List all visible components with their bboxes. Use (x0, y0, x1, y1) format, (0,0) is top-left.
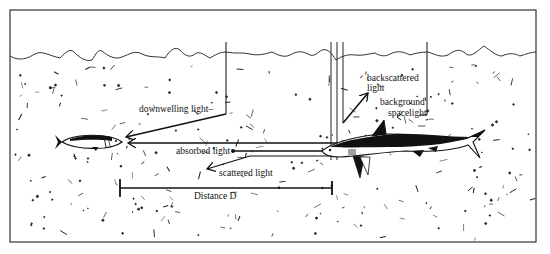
particle (360, 225, 361, 226)
particle (230, 228, 231, 229)
particle (344, 194, 349, 196)
label-distance-d: Distance D (194, 191, 237, 201)
particle (412, 69, 414, 71)
particle (272, 234, 273, 237)
particle (437, 171, 442, 173)
particle (154, 229, 155, 237)
particle (44, 216, 45, 217)
particle (169, 79, 171, 81)
particle (264, 138, 267, 142)
particle (485, 193, 487, 195)
particle (256, 146, 263, 148)
particle (21, 82, 23, 88)
particle (55, 84, 57, 86)
particle (438, 93, 439, 94)
particle (376, 108, 377, 109)
particle (42, 176, 46, 178)
particle (484, 205, 485, 207)
particle (49, 191, 50, 192)
particle (465, 210, 466, 211)
particle (155, 152, 157, 154)
particle (240, 127, 242, 129)
particle (472, 128, 473, 129)
particle (238, 216, 240, 221)
particle (216, 92, 218, 94)
particle (293, 167, 295, 169)
particle (54, 72, 59, 75)
particle (103, 67, 105, 69)
particle (251, 193, 258, 195)
particle (320, 135, 322, 137)
particle (30, 180, 31, 181)
particle (477, 177, 478, 178)
particle (90, 67, 96, 68)
suspended-particles (15, 65, 535, 241)
particle (503, 185, 504, 189)
particle (104, 84, 106, 86)
diagram-canvas: downwelling light– backscattered light b… (0, 0, 550, 254)
particle (83, 210, 84, 211)
particle (309, 98, 311, 100)
particle (511, 78, 513, 85)
particle (129, 138, 130, 139)
particle (337, 221, 338, 222)
particle (78, 193, 83, 196)
particle (479, 166, 482, 168)
particle (61, 95, 62, 96)
particle (15, 154, 16, 155)
label-absorbed-light: absorbed light (176, 146, 230, 156)
particle (115, 180, 116, 183)
particle (326, 137, 328, 139)
particle (314, 204, 321, 208)
particle (360, 76, 362, 79)
particle (251, 110, 253, 117)
particle (75, 158, 76, 159)
particle (169, 92, 171, 94)
particle (118, 84, 120, 86)
absorbed-light-dot (231, 149, 235, 153)
particle (384, 204, 388, 209)
particle (342, 207, 345, 208)
particle (25, 83, 26, 84)
particle (191, 65, 193, 67)
target-fish (55, 135, 122, 151)
particle (117, 153, 119, 154)
label-scattered-light: scattered light (219, 168, 273, 178)
particle (449, 67, 453, 68)
particle (295, 94, 297, 96)
particle (513, 104, 515, 106)
particle (235, 214, 236, 219)
particle (126, 146, 127, 148)
particle (530, 199, 535, 200)
particle (31, 223, 32, 224)
particle (132, 212, 133, 213)
particle (341, 88, 348, 90)
particle (111, 65, 115, 70)
particle (17, 129, 18, 130)
particle (76, 80, 78, 86)
label-background-spacelight-2: spacelight (388, 108, 427, 118)
particle (168, 220, 169, 224)
particle (354, 224, 358, 228)
downwelling-arrow (126, 114, 226, 137)
particle (85, 67, 90, 69)
particle (426, 203, 427, 204)
particle (263, 129, 264, 133)
particle (485, 223, 487, 225)
particle (433, 215, 437, 217)
particle (493, 71, 495, 73)
particle (163, 206, 168, 208)
particle (112, 125, 116, 130)
particle (250, 124, 254, 128)
particle (478, 138, 480, 140)
particle (364, 206, 365, 208)
particle (279, 181, 285, 182)
particle (199, 172, 201, 180)
particle (498, 212, 505, 216)
particle (104, 212, 107, 218)
particle (116, 88, 123, 90)
label-backscattered-light-1: backscattered (367, 73, 419, 83)
particle (380, 236, 386, 237)
particle (169, 197, 173, 201)
particle (320, 163, 323, 165)
